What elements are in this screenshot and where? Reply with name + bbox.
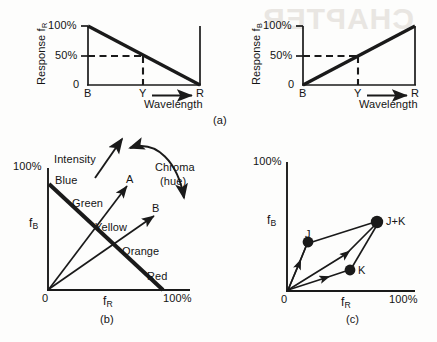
panel-a-right-ytick-100: 100% (263, 19, 292, 31)
panel-c-xaxis-title: fR (341, 295, 351, 310)
panel-a-right-ytick-50: 50% (270, 49, 292, 61)
panel-b-vector-b-label: B (152, 202, 159, 214)
yaxis-title-main: Response f (35, 28, 47, 85)
panel-a-right-ytick-0: 0 (288, 78, 294, 90)
panel-b-yaxis-title: fB (29, 216, 38, 231)
panel-c-chart (286, 162, 415, 292)
panel-b-intensity-label: Intensity (54, 153, 96, 165)
hue-locus-line (49, 184, 163, 290)
edge-j-to-jk (309, 222, 375, 243)
panel-b-origin-label: 0 (42, 292, 48, 304)
panel-b-hue-red-label: Red (147, 270, 167, 282)
panel-b-vector-a-label: A (126, 173, 133, 185)
panel-b-xtick-100: 100% (163, 292, 192, 304)
edge-k-to-jk (351, 225, 377, 269)
panel-a-left-xtick-b: B (84, 87, 91, 99)
point-k-marker (345, 265, 356, 276)
panel-a-right-xtick-b: B (299, 87, 306, 99)
panel-c-yaxis-title: fB (267, 213, 276, 228)
panel-a-right-xaxis-title: Wavelength (359, 98, 418, 110)
caption-c: (c) (346, 313, 359, 325)
caption-b: (b) (100, 313, 114, 325)
xaxis-title-subscript: R (344, 300, 350, 310)
panel-c-point-k-label: K (358, 264, 365, 276)
panel-b-ytick-100: 100% (13, 160, 42, 172)
panel-b-hue-orange-label: Orange (122, 245, 159, 257)
panel-b-hue-green-label: Green (72, 197, 103, 209)
panel-a-left-yaxis-title: Response fR (35, 23, 49, 85)
figure-root: CHAPTER (0, 0, 437, 342)
panel-c-point-jk-label: J+K (386, 215, 406, 227)
yaxis-title-main: Response f (250, 28, 262, 85)
yaxis-title-subscript: B (270, 218, 276, 228)
panel-b-chroma-sub-label: (hue) (160, 175, 186, 187)
panel-a-left-ytick-0: 0 (73, 78, 79, 90)
panel-a-right-yaxis-title: Response fB (250, 23, 264, 85)
panel-b-xaxis-title: fR (103, 294, 113, 309)
yaxis-title-subscript: B (32, 221, 38, 231)
xaxis-title-subscript: R (106, 299, 112, 309)
panel-c-origin-label: 0 (281, 293, 287, 305)
panel-a-right-chart (296, 26, 416, 96)
panel-a-left-ytick-100: 100% (48, 19, 77, 31)
point-jk-marker (371, 216, 383, 228)
panel-b-chroma-label: Chroma (155, 161, 195, 173)
panel-c-ytick-100: 100% (253, 155, 282, 167)
panel-c-point-j-label: J (305, 228, 311, 240)
panel-a-left-xaxis-title: Wavelength (144, 98, 203, 110)
yaxis-title-subscript: R (40, 23, 49, 29)
vector-origin-to-k (288, 270, 349, 290)
panel-c-xtick-100: 100% (389, 293, 418, 305)
caption-a: (a) (213, 114, 227, 126)
yaxis-title-subscript: B (255, 23, 264, 28)
panel-a-left-chart (81, 26, 201, 96)
panel-b-hue-blue-label: Blue (55, 174, 77, 186)
intensity-arrow (95, 139, 122, 178)
panel-a-left-ytick-50: 50% (55, 49, 77, 61)
panel-b-hue-yellow-label: Yellow (95, 221, 127, 233)
